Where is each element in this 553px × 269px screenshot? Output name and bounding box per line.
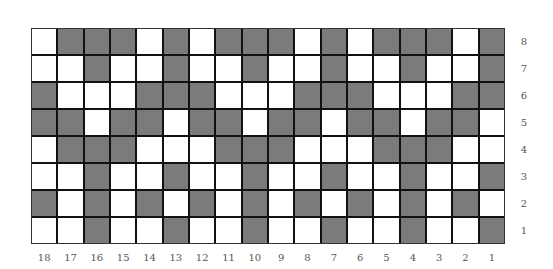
grid-cell (164, 56, 188, 81)
grid-cell (427, 29, 451, 54)
grid-cell (58, 110, 82, 135)
grid-cell (190, 110, 214, 135)
grid-cell (216, 218, 240, 243)
grid-cell (269, 29, 293, 54)
grid-cell (164, 218, 188, 243)
grid-cell (322, 83, 346, 108)
grid-cell (190, 218, 214, 243)
grid-cell (85, 110, 109, 135)
grid-cell (243, 218, 267, 243)
grid-cell (295, 218, 319, 243)
grid-cell (295, 137, 319, 162)
grid-cell (480, 164, 504, 189)
grid-cell (164, 137, 188, 162)
grid-cell (453, 110, 477, 135)
grid-cell (401, 218, 425, 243)
row-label: 7 (514, 55, 534, 82)
grid-cell (164, 29, 188, 54)
grid-cell (243, 191, 267, 216)
grid-cell (137, 110, 161, 135)
grid-cell (374, 191, 398, 216)
grid-cell (453, 83, 477, 108)
grid-cell (269, 137, 293, 162)
grid-cell (85, 83, 109, 108)
grid-cell (374, 83, 398, 108)
grid-cell (269, 56, 293, 81)
grid-cell (348, 56, 372, 81)
grid-cell (348, 137, 372, 162)
grid-cell (85, 218, 109, 243)
column-label: 7 (321, 252, 347, 268)
row-label: 1 (514, 217, 534, 244)
column-label: 18 (31, 252, 57, 268)
grid-cell (216, 164, 240, 189)
pattern-grid (31, 28, 505, 244)
grid-cell (348, 191, 372, 216)
grid-cell (269, 164, 293, 189)
grid-cell (322, 191, 346, 216)
grid-cell (32, 83, 56, 108)
grid-cell (111, 110, 135, 135)
grid-cell (427, 83, 451, 108)
column-label: 15 (110, 252, 136, 268)
grid-cell (374, 56, 398, 81)
column-labels: 181716151413121110987654321 (31, 252, 505, 268)
grid-cell (374, 110, 398, 135)
grid-cell (243, 29, 267, 54)
grid-cell (32, 29, 56, 54)
grid-cell (480, 218, 504, 243)
column-label: 10 (242, 252, 268, 268)
grid-cell (269, 83, 293, 108)
grid-cell (111, 164, 135, 189)
grid-cell (374, 29, 398, 54)
grid-cell (269, 110, 293, 135)
grid-cell (401, 137, 425, 162)
row-label: 4 (514, 136, 534, 163)
grid-cell (58, 29, 82, 54)
grid-cell (374, 218, 398, 243)
column-label: 11 (215, 252, 241, 268)
grid-cell (295, 191, 319, 216)
grid-cell (427, 110, 451, 135)
grid-cell (348, 83, 372, 108)
row-label: 5 (514, 109, 534, 136)
grid-cell (137, 29, 161, 54)
grid-cell (32, 56, 56, 81)
grid-cell (32, 191, 56, 216)
grid-cell (111, 191, 135, 216)
grid-cell (85, 56, 109, 81)
grid-cell (111, 137, 135, 162)
grid-cell (137, 218, 161, 243)
row-label: 8 (514, 28, 534, 55)
grid-cell (427, 164, 451, 189)
column-label: 12 (189, 252, 215, 268)
grid-cell (243, 83, 267, 108)
grid-cell (453, 29, 477, 54)
grid-cell (85, 191, 109, 216)
grid-cell (190, 83, 214, 108)
grid-cell (164, 110, 188, 135)
grid-cell (164, 83, 188, 108)
grid-cell (453, 218, 477, 243)
grid-cell (269, 218, 293, 243)
grid-cell (111, 29, 135, 54)
column-label: 14 (136, 252, 162, 268)
grid-cell (243, 137, 267, 162)
grid-cell (322, 164, 346, 189)
grid-cell (190, 29, 214, 54)
grid-cell (58, 164, 82, 189)
grid-cell (32, 110, 56, 135)
grid-cell (216, 191, 240, 216)
grid-cell (216, 29, 240, 54)
grid-cell (216, 56, 240, 81)
grid-cell (190, 191, 214, 216)
grid-cell (480, 83, 504, 108)
grid-cell (480, 191, 504, 216)
grid-cell (295, 110, 319, 135)
grid-cell (453, 137, 477, 162)
grid-cell (348, 164, 372, 189)
grid-cell (295, 164, 319, 189)
grid-cell (453, 164, 477, 189)
grid-cell (137, 164, 161, 189)
grid-cell (401, 110, 425, 135)
